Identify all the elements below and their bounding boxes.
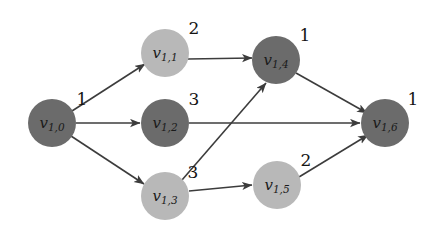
node-weight-label: 1 xyxy=(300,25,311,45)
graph-node: v1,0 xyxy=(28,99,76,147)
nodes-layer: v1,0v1,1v1,2v1,3v1,4v1,5v1,6 xyxy=(28,29,409,220)
weights-layer: 1233121 xyxy=(77,18,419,182)
graph-edge xyxy=(71,136,144,184)
graph-canvas: v1,0v1,1v1,2v1,3v1,4v1,5v1,6 1233121 xyxy=(0,0,433,237)
graph-edge xyxy=(296,73,367,113)
graph-node: v1,3 xyxy=(141,172,189,220)
node-weight-label: 1 xyxy=(77,89,88,109)
graph-node: v1,5 xyxy=(253,161,301,209)
graph-edge xyxy=(189,185,252,191)
node-weight-label: 3 xyxy=(188,162,199,182)
graph-node: v1,1 xyxy=(141,29,189,77)
graph-edge xyxy=(188,58,252,59)
edges-layer xyxy=(71,58,368,191)
node-weight-label: 1 xyxy=(408,89,419,109)
graph-node: v1,2 xyxy=(141,99,189,147)
node-weight-label: 2 xyxy=(301,150,312,170)
graph-node: v1,4 xyxy=(252,36,300,84)
node-weight-label: 2 xyxy=(189,18,200,38)
node-weight-label: 3 xyxy=(189,89,200,109)
graph-diagram: v1,0v1,1v1,2v1,3v1,4v1,5v1,6 1233121 xyxy=(0,0,433,237)
graph-node: v1,6 xyxy=(361,99,409,147)
